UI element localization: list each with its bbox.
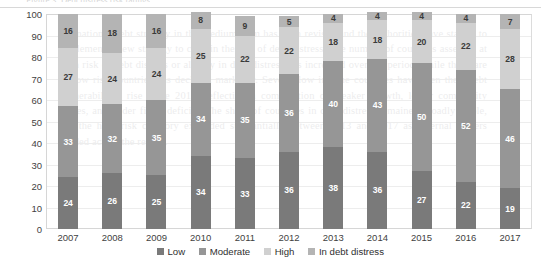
bar-segment-low[interactable]: 22: [456, 182, 476, 229]
stacked-bar: 5223636: [279, 16, 299, 229]
bar-segment-moderate[interactable]: 43: [367, 59, 387, 151]
y-axis-labels: 1009080706050403020100: [8, 14, 42, 229]
y-axis-tick-70: 70: [8, 73, 42, 84]
bar-segment-moderate[interactable]: 35: [235, 83, 255, 158]
bar-segment-moderate[interactable]: 46: [500, 89, 520, 188]
bar-segment-low[interactable]: 36: [279, 152, 299, 229]
bar-segment-high[interactable]: 24: [102, 53, 122, 105]
bar-segment-high[interactable]: 18: [323, 23, 343, 62]
stacked-bar: 4225222: [456, 14, 476, 229]
stacked-bar: 4184336: [367, 12, 387, 229]
legend-swatch-icon: [264, 248, 271, 255]
bar-segment-moderate[interactable]: 33: [58, 106, 78, 177]
stacked-bar: 8253434: [191, 12, 211, 229]
legend-item-low[interactable]: Low: [157, 246, 185, 257]
legend-swatch-icon: [157, 248, 164, 255]
stacked-bar-chart: 1009080706050403020100 16273324182432261…: [0, 0, 541, 264]
bar-segment-moderate[interactable]: 34: [191, 83, 211, 156]
bar-segment-in-debt-distress[interactable]: 5: [279, 16, 299, 27]
bar-column-2008[interactable]: 18243226: [90, 14, 134, 229]
x-axis-tick-2014: 2014: [355, 232, 399, 243]
x-axis-tick-2016: 2016: [444, 232, 488, 243]
x-axis-tick-2011: 2011: [223, 232, 267, 243]
bar-segment-low[interactable]: 19: [500, 188, 520, 229]
x-axis-tick-2009: 2009: [134, 232, 178, 243]
y-axis-tick-10: 10: [8, 202, 42, 213]
legend-item-in-debt-distress[interactable]: In debt distress: [308, 246, 384, 257]
y-axis-tick-20: 20: [8, 181, 42, 192]
bar-segment-moderate[interactable]: 35: [146, 100, 166, 175]
bar-segment-moderate[interactable]: 50: [412, 63, 432, 171]
bar-column-2015[interactable]: 4205027: [400, 14, 444, 229]
bar-segment-moderate[interactable]: 32: [102, 104, 122, 173]
legend-swatch-icon: [199, 248, 206, 255]
y-axis-tick-60: 60: [8, 95, 42, 106]
legend-label: In debt distress: [319, 246, 384, 257]
bar-segment-low[interactable]: 33: [235, 158, 255, 229]
stacked-bar: 16273324: [58, 14, 78, 229]
bar-segment-in-debt-distress[interactable]: 16: [146, 14, 166, 48]
legend-item-high[interactable]: High: [264, 246, 294, 257]
bar-segment-high[interactable]: 18: [367, 20, 387, 59]
bar-segment-in-debt-distress[interactable]: 4: [456, 14, 476, 23]
bar-segment-low[interactable]: 25: [146, 175, 166, 229]
bar-segment-in-debt-distress[interactable]: 7: [500, 14, 520, 29]
bar-segment-high[interactable]: 22: [279, 27, 299, 74]
bar-segment-high[interactable]: 28: [500, 29, 520, 89]
bar-segment-low[interactable]: 38: [323, 147, 343, 229]
bar-segment-high[interactable]: 20: [412, 20, 432, 63]
bar-segment-high[interactable]: 24: [146, 48, 166, 100]
bar-segment-low[interactable]: 34: [191, 156, 211, 229]
bar-segment-moderate[interactable]: 52: [456, 70, 476, 182]
chart-legend: LowModerateHighIn debt distress: [0, 246, 541, 257]
stacked-bar: 7284619: [500, 14, 520, 229]
bar-column-2017[interactable]: 7284619: [488, 14, 532, 229]
bar-segment-in-debt-distress[interactable]: 18: [102, 14, 122, 53]
bar-column-2009[interactable]: 16243525: [134, 14, 178, 229]
stacked-bar: 16243525: [146, 14, 166, 229]
bar-segment-high[interactable]: 22: [235, 36, 255, 83]
bar-column-2012[interactable]: 5223636: [267, 14, 311, 229]
x-axis-labels: 2007200820092010201120122013201420152016…: [46, 232, 532, 243]
stacked-bar: 18243226: [102, 14, 122, 229]
bar-segment-moderate[interactable]: 40: [323, 61, 343, 147]
bar-segment-in-debt-distress[interactable]: 16: [58, 14, 78, 48]
bar-segment-low[interactable]: 24: [58, 177, 78, 229]
y-axis-tick-50: 50: [8, 116, 42, 127]
bar-segment-in-debt-distress[interactable]: 4: [367, 12, 387, 21]
stacked-bar: 4205027: [412, 12, 432, 229]
bar-column-2016[interactable]: 4225222: [444, 14, 488, 229]
bar-segment-low[interactable]: 26: [102, 173, 122, 229]
x-axis-tick-2015: 2015: [400, 232, 444, 243]
y-axis-tick-90: 90: [8, 30, 42, 41]
stacked-bar: 4184038: [323, 14, 343, 229]
y-axis-tick-40: 40: [8, 138, 42, 149]
bar-segment-high[interactable]: 22: [456, 23, 476, 70]
bar-segment-in-debt-distress[interactable]: 4: [323, 14, 343, 23]
bar-column-2013[interactable]: 4184038: [311, 14, 355, 229]
legend-label: Moderate: [210, 246, 251, 257]
x-axis-tick-2013: 2013: [311, 232, 355, 243]
bar-segment-high[interactable]: 25: [191, 29, 211, 83]
y-axis-tick-30: 30: [8, 159, 42, 170]
legend-swatch-icon: [308, 248, 315, 255]
bar-segment-low[interactable]: 36: [367, 152, 387, 229]
bar-columns: 1627332418243226162435258253434922353352…: [46, 14, 532, 229]
bar-column-2007[interactable]: 16273324: [46, 14, 90, 229]
y-axis-tick-0: 0: [8, 224, 42, 235]
stacked-bar: 9223533: [235, 16, 255, 229]
bar-column-2010[interactable]: 8253434: [179, 14, 223, 229]
legend-item-moderate[interactable]: Moderate: [199, 246, 250, 257]
bar-segment-in-debt-distress[interactable]: 8: [191, 12, 211, 29]
bar-segment-in-debt-distress[interactable]: 4: [412, 12, 432, 21]
bar-segment-low[interactable]: 27: [412, 171, 432, 229]
x-axis-tick-2008: 2008: [90, 232, 134, 243]
bar-segment-in-debt-distress[interactable]: 9: [235, 16, 255, 35]
bar-segment-high[interactable]: 27: [58, 48, 78, 106]
bar-segment-moderate[interactable]: 36: [279, 74, 299, 151]
bar-column-2014[interactable]: 4184336: [355, 14, 399, 229]
bar-column-2011[interactable]: 9223533: [223, 14, 267, 229]
y-axis-tick-100: 100: [8, 9, 42, 20]
x-axis-tick-2010: 2010: [179, 232, 223, 243]
legend-label: High: [275, 246, 295, 257]
